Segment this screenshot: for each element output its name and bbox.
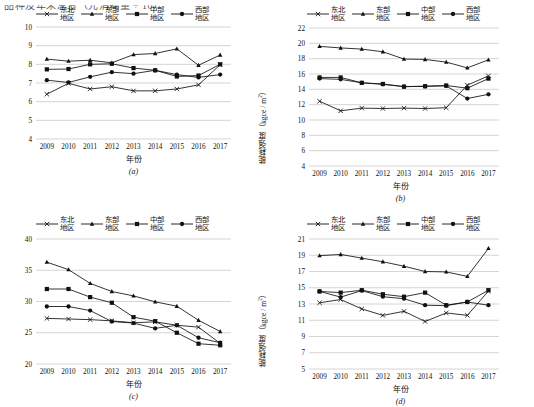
legend-item-west[interactable]: 西部地区 xyxy=(171,6,209,22)
legend-item-west[interactable]: 西部地区 xyxy=(442,6,480,22)
y-tick-label: 5 xyxy=(28,117,32,125)
y-tick-label: 6 xyxy=(301,147,305,155)
data-point-circle xyxy=(444,303,448,307)
legend-item-northeast[interactable]: 东北地区 xyxy=(36,216,74,232)
legend-label-west: 西部地区 xyxy=(195,6,209,22)
legend-label-line2: 地区 xyxy=(105,224,119,232)
x-tick-label: 2015 xyxy=(170,368,185,376)
data-point-circle xyxy=(175,72,179,76)
subfigure-caption-a: (a) xyxy=(0,167,267,176)
data-point-square xyxy=(339,291,343,295)
x-tick-label: 2011 xyxy=(83,143,98,151)
data-point-triangle xyxy=(175,46,179,50)
series-line-东部地区 xyxy=(47,49,220,65)
legend-label-west: 西部地区 xyxy=(466,216,480,232)
y-tick-label: 19 xyxy=(298,252,306,260)
legend-marker-triangle-icon xyxy=(81,9,103,19)
legend-label-northeast: 东北地区 xyxy=(60,6,74,22)
y-tick-label: 30 xyxy=(25,298,33,306)
legend-label-line2: 地区 xyxy=(421,224,435,232)
y-axis-label: 能耗强度（kgce / m2） xyxy=(257,241,269,367)
x-tick-label: 2009 xyxy=(312,170,327,178)
data-point-circle xyxy=(360,81,364,85)
x-tick-label: 2016 xyxy=(191,368,206,376)
legend-label-line2: 地区 xyxy=(331,14,345,22)
x-tick-label: 2017 xyxy=(213,143,228,151)
x-tick-label: 2009 xyxy=(40,368,55,376)
legend-item-west[interactable]: 西部地区 xyxy=(442,216,480,232)
x-axis-label: 年份 xyxy=(267,180,534,191)
legend-item-northeast[interactable]: 东北地区 xyxy=(36,6,74,22)
data-point-circle xyxy=(88,308,92,312)
data-point-triangle xyxy=(338,252,342,256)
legend-label-east: 东部地区 xyxy=(376,6,390,22)
legend-item-east[interactable]: 东部地区 xyxy=(81,216,119,232)
x-tick-label: 2015 xyxy=(439,373,454,381)
legend-item-east[interactable]: 东部地区 xyxy=(352,216,390,232)
x-tick-label: 2010 xyxy=(61,143,76,151)
x-tick-label: 2009 xyxy=(40,143,55,151)
data-point-circle xyxy=(360,288,364,292)
x-tick-label: 2012 xyxy=(105,143,120,151)
y-tick-label: 12 xyxy=(298,101,306,109)
legend-item-west[interactable]: 西部地区 xyxy=(171,216,209,232)
y-tick-label: 11 xyxy=(298,317,305,325)
y-tick-label: 17 xyxy=(298,268,306,276)
legend-label-east: 东部地区 xyxy=(105,216,119,232)
plot-area-c: 2025303540200920102011201220132014201520… xyxy=(12,233,247,384)
subfigure-caption-d: (d) xyxy=(267,397,534,406)
x-tick-label: 2013 xyxy=(126,143,141,151)
data-point-triangle xyxy=(45,57,49,61)
data-point-circle xyxy=(402,85,406,89)
legend-item-central[interactable]: 中部地区 xyxy=(126,216,164,232)
data-point-circle xyxy=(153,68,157,72)
series-line-东北地区 xyxy=(320,76,489,111)
y-axis-label-suffix: ） xyxy=(259,290,268,298)
figure-container: 品种及年末总台（元消耗量 ÷ 10） 东北地区东部地区中部地区西部地区45678… xyxy=(0,0,534,407)
y-axis-label-text: 能耗强度（kgce / m xyxy=(259,301,268,367)
y-tick-label: 21 xyxy=(298,236,306,244)
y-tick-label: 13 xyxy=(298,301,306,309)
x-tick-label: 2014 xyxy=(148,368,163,376)
legend-item-central[interactable]: 中部地区 xyxy=(126,6,164,22)
y-tick-label: 7 xyxy=(301,349,305,357)
legend-item-northeast[interactable]: 东北地区 xyxy=(307,6,345,22)
legend-label-line2: 地区 xyxy=(150,224,164,232)
data-point-cross xyxy=(317,99,321,103)
data-point-triangle xyxy=(218,53,222,57)
legend-item-central[interactable]: 中部地区 xyxy=(397,216,435,232)
data-point-circle xyxy=(339,295,343,299)
chart-panel-c: 东北地区东部地区中部地区西部地区202530354020092010201120… xyxy=(0,203,267,407)
y-tick-label: 16 xyxy=(298,71,306,79)
y-tick-label: 4 xyxy=(301,163,305,171)
y-axis-label-text: 能耗强度（kgce / m xyxy=(259,98,268,164)
legend-item-central[interactable]: 中部地区 xyxy=(397,6,435,22)
subfigure-caption-b: (b) xyxy=(267,194,534,203)
x-tick-label: 2009 xyxy=(312,373,327,381)
data-point-triangle xyxy=(317,44,321,48)
legend-label-line2: 地区 xyxy=(195,224,209,232)
data-point-circle xyxy=(196,336,200,340)
legend-label-northeast: 东北地区 xyxy=(331,216,345,232)
legend-marker-square-icon xyxy=(397,9,419,19)
legend-marker-circle-icon xyxy=(171,219,193,229)
legend-item-northeast[interactable]: 东北地区 xyxy=(307,216,345,232)
data-point-circle xyxy=(317,76,321,80)
x-tick-label: 2013 xyxy=(126,368,141,376)
legend-label-line2: 地区 xyxy=(466,14,480,22)
data-point-triangle xyxy=(88,281,92,285)
legend-item-east[interactable]: 东部地区 xyxy=(81,6,119,22)
x-tick-label: 2017 xyxy=(481,373,496,381)
data-point-circle xyxy=(88,75,92,79)
y-tick-label: 10 xyxy=(25,24,33,32)
data-point-circle xyxy=(402,297,406,301)
chart-legend: 东北地区东部地区中部地区西部地区 xyxy=(307,6,480,22)
x-tick-label: 2015 xyxy=(170,143,185,151)
legend-item-east[interactable]: 东部地区 xyxy=(352,6,390,22)
subfigure-caption-c: (c) xyxy=(0,392,267,401)
chart-panel-b: 东北地区东部地区中部地区西部地区468101214161820222009201… xyxy=(267,0,534,203)
data-point-square xyxy=(45,287,49,291)
data-point-square xyxy=(218,62,222,66)
legend-label-line2: 地区 xyxy=(376,14,390,22)
data-point-circle xyxy=(339,77,343,81)
